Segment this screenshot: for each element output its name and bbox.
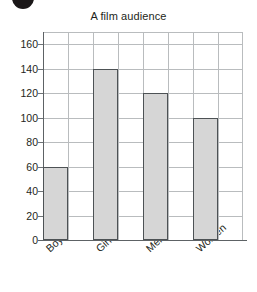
y-tick-label-0: 0: [6, 235, 38, 246]
bar-men: [143, 93, 168, 240]
y-tick-label-120: 120: [6, 88, 38, 99]
bar-boys: [43, 167, 68, 240]
y-tick-label-100: 100: [6, 113, 38, 124]
y-tick-label-40: 40: [6, 186, 38, 197]
y-tick-label-140: 140: [6, 64, 38, 75]
plot-area: [43, 32, 243, 240]
x-axis-line: [38, 240, 247, 241]
bar-girls: [93, 69, 118, 240]
chart-title: A film audience: [0, 9, 257, 23]
bar-women: [193, 118, 218, 240]
y-tick-label-160: 160: [6, 39, 38, 50]
y-tick-label-80: 80: [6, 137, 38, 148]
y-tick-label-20: 20: [6, 211, 38, 222]
y-tick-label-60: 60: [6, 162, 38, 173]
corner-bullet-dot: [12, 0, 34, 9]
